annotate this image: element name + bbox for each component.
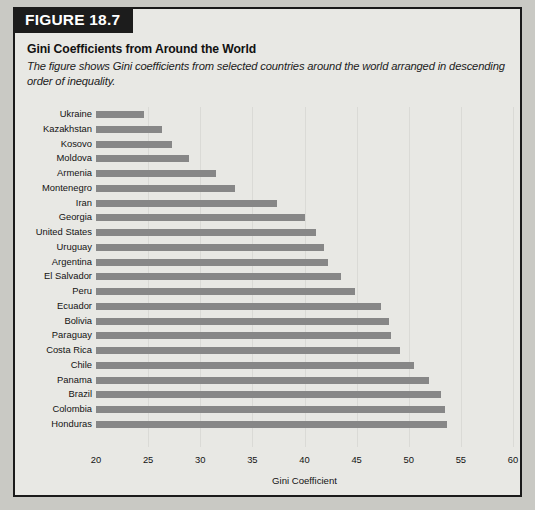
x-tick-label: 50 xyxy=(404,454,414,465)
bar-row: Honduras xyxy=(25,417,513,432)
bar xyxy=(96,170,216,177)
bar-category-label: Armenia xyxy=(25,166,92,181)
bar-track xyxy=(96,107,513,122)
bar-category-label: Paraguay xyxy=(25,328,92,343)
bar-category-label: Iran xyxy=(25,196,92,211)
bar-row: Moldova xyxy=(25,151,513,166)
x-tick-label: 35 xyxy=(247,454,257,465)
bar-category-label: Moldova xyxy=(25,151,92,166)
bar-track xyxy=(96,343,513,358)
bar xyxy=(96,111,144,118)
bar-category-label: Panama xyxy=(25,373,92,388)
bar xyxy=(96,200,277,207)
bar-row: Kosovo xyxy=(25,137,513,152)
bar-track xyxy=(96,122,513,137)
bar-row: Costa Rica xyxy=(25,343,513,358)
bar-category-label: Peru xyxy=(25,284,92,299)
bar xyxy=(96,126,162,133)
bar-row: Georgia xyxy=(25,210,513,225)
bar xyxy=(96,229,316,236)
bar-track xyxy=(96,284,513,299)
bar-track xyxy=(96,387,513,402)
bar-track xyxy=(96,181,513,196)
bar-track xyxy=(96,196,513,211)
figure-caption: The figure shows Gini coefficients from … xyxy=(27,59,508,89)
bar-track xyxy=(96,314,513,329)
bar-category-label: Uruguay xyxy=(25,240,92,255)
bar-category-label: Kazakhstan xyxy=(25,122,92,137)
x-tick-label: 20 xyxy=(91,454,101,465)
bar xyxy=(96,362,414,369)
bar-row: Argentina xyxy=(25,255,513,270)
bar-category-label: Montenegro xyxy=(25,181,92,196)
bar-row: Ukraine xyxy=(25,107,513,122)
bar xyxy=(96,318,389,325)
bar-track xyxy=(96,417,513,432)
bar-track xyxy=(96,225,513,240)
bar xyxy=(96,141,172,148)
bar-row: Colombia xyxy=(25,402,513,417)
bar-category-label: Georgia xyxy=(25,210,92,225)
figure-card: FIGURE 18.7 Gini Coefficients from Aroun… xyxy=(13,7,522,497)
bar-row: Ecuador xyxy=(25,299,513,314)
bar xyxy=(96,288,355,295)
bar-track xyxy=(96,328,513,343)
bar xyxy=(96,303,381,310)
x-axis-title: Gini Coefficient xyxy=(96,475,513,486)
bar xyxy=(96,155,189,162)
bar-row: Montenegro xyxy=(25,181,513,196)
bar-track xyxy=(96,358,513,373)
bar xyxy=(96,214,305,221)
bar-track xyxy=(96,255,513,270)
x-tick-label: 40 xyxy=(299,454,309,465)
bar-track xyxy=(96,299,513,314)
bar-row: El Salvador xyxy=(25,269,513,284)
bar xyxy=(96,406,445,413)
page-title: Gini Coefficients from Around the World xyxy=(27,42,508,56)
bar-track xyxy=(96,373,513,388)
bar-track xyxy=(96,240,513,255)
bar-row: Peru xyxy=(25,284,513,299)
bar-track xyxy=(96,137,513,152)
bar-track xyxy=(96,166,513,181)
x-tick-label: 25 xyxy=(143,454,153,465)
bar-row: United States xyxy=(25,225,513,240)
x-tick-label: 55 xyxy=(456,454,466,465)
bar-category-label: Colombia xyxy=(25,402,92,417)
bar-track xyxy=(96,269,513,284)
bar-row: Kazakhstan xyxy=(25,122,513,137)
bar xyxy=(96,273,341,280)
bar-track xyxy=(96,151,513,166)
bar-row: Armenia xyxy=(25,166,513,181)
bar-rows-container: UkraineKazakhstanKosovoMoldovaArmeniaMon… xyxy=(25,107,513,432)
bar xyxy=(96,332,391,339)
bar-category-label: El Salvador xyxy=(25,269,92,284)
bar-category-label: Costa Rica xyxy=(25,343,92,358)
x-tick-label: 30 xyxy=(195,454,205,465)
bar xyxy=(96,259,328,266)
bar-row: Uruguay xyxy=(25,240,513,255)
bar-category-label: Honduras xyxy=(25,417,92,432)
bar xyxy=(96,391,441,398)
bar-category-label: Ecuador xyxy=(25,299,92,314)
bar xyxy=(96,185,235,192)
bar-row: Chile xyxy=(25,358,513,373)
bar-category-label: Argentina xyxy=(25,255,92,270)
bar-category-label: Brazil xyxy=(25,387,92,402)
x-axis-ticks: 202530354045505560 xyxy=(96,454,513,470)
bar-chart-plot-area: UkraineKazakhstanKosovoMoldovaArmeniaMon… xyxy=(25,107,513,452)
title-block: Gini Coefficients from Around the World … xyxy=(27,42,508,89)
bar-row: Paraguay xyxy=(25,328,513,343)
gridline xyxy=(513,107,514,447)
figure-number-tag: FIGURE 18.7 xyxy=(13,7,133,33)
bar-row: Brazil xyxy=(25,387,513,402)
bar-row: Bolivia xyxy=(25,314,513,329)
bar-track xyxy=(96,210,513,225)
x-tick-label: 60 xyxy=(508,454,518,465)
bar xyxy=(96,244,324,251)
bar xyxy=(96,347,400,354)
bar xyxy=(96,421,447,428)
bar xyxy=(96,377,429,384)
bar-category-label: Ukraine xyxy=(25,107,92,122)
bar-category-label: United States xyxy=(25,225,92,240)
